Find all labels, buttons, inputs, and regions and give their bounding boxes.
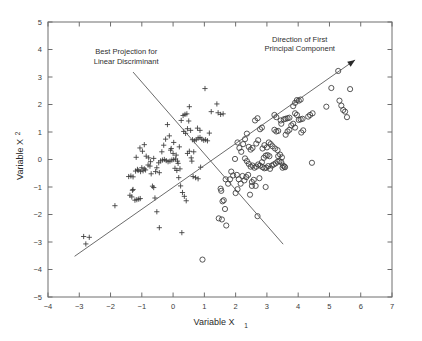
y-tick-label: −1 [33, 183, 42, 192]
y-tick-label: 0 [38, 155, 42, 164]
plot-canvas: −4−3−2−101234567 543210−1−2−3−4−5 Direct… [0, 0, 422, 341]
lda-annotation-line-1: Linear Discriminant [94, 57, 160, 66]
y-axis-title-subscript: 2 [14, 131, 21, 135]
x-axis-title-subscript: 1 [244, 322, 248, 329]
x-tick-label: 5 [327, 302, 331, 311]
x-tick-label: 2 [234, 302, 238, 311]
x-tick-label: −1 [138, 302, 147, 311]
x-tick-label: 0 [171, 302, 175, 311]
y-tick-label: −2 [33, 210, 42, 219]
x-tick-label: −3 [75, 302, 84, 311]
x-tick-label: 6 [359, 302, 363, 311]
scatter-plot-figure: −4−3−2−101234567 543210−1−2−3−4−5 Direct… [0, 0, 422, 341]
y-tick-label: −4 [33, 265, 42, 274]
pca-annotation-line-0: Direction of First [272, 35, 328, 44]
x-tick-label: −4 [44, 302, 53, 311]
lda-annotation: Best Projection forLinear Discriminant [94, 47, 160, 66]
lda-annotation-line-0: Best Projection for [95, 47, 158, 56]
x-axis-title-text: Variable X [194, 317, 235, 327]
y-tick-label: −5 [33, 293, 42, 302]
y-tick-label: −3 [33, 238, 42, 247]
y-tick-label: 1 [38, 128, 42, 137]
x-tick-label: 1 [202, 302, 206, 311]
x-tick-label: 4 [296, 302, 300, 311]
x-tick-label: 3 [265, 302, 269, 311]
x-tick-label: 7 [390, 302, 394, 311]
y-tick-label: 5 [38, 18, 42, 27]
y-tick-label: 3 [38, 73, 42, 82]
x-tick-label: −2 [106, 302, 115, 311]
y-tick-label: 4 [38, 45, 42, 54]
y-tick-label: 2 [38, 100, 42, 109]
y-axis-title-text: Variable X [15, 139, 25, 180]
figure-background [0, 0, 422, 341]
pca-annotation-line-1: Principal Component [264, 44, 335, 53]
pca-annotation: Direction of FirstPrincipal Component [264, 35, 335, 54]
